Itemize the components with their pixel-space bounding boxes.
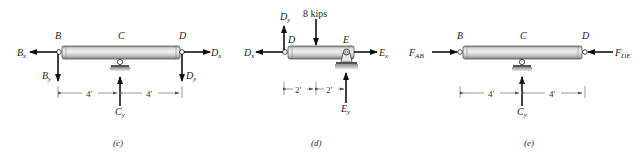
dimension-label-2: 2′ bbox=[326, 85, 333, 95]
force-label-bx: Bx bbox=[17, 47, 27, 60]
dimension-line bbox=[284, 82, 344, 95]
point-label-b: B bbox=[457, 30, 463, 41]
dimension-label-1: 4′ bbox=[488, 89, 495, 99]
point-label-e: E bbox=[342, 34, 349, 45]
point-label-d: D bbox=[581, 30, 590, 41]
force-label-dx: Dx bbox=[243, 47, 255, 60]
point-label-b: B bbox=[55, 30, 61, 41]
point-label-d: D bbox=[178, 30, 187, 41]
caption-c: (c) bbox=[113, 138, 123, 148]
roller-support-c bbox=[110, 59, 130, 71]
force-label-dx: Dx bbox=[210, 47, 222, 60]
force-label-cy: Cy bbox=[115, 106, 126, 119]
panel-e: B C D FAB FDE Cy 4′ 4′ (e) bbox=[408, 30, 631, 148]
dimension-label-2: 4′ bbox=[549, 89, 556, 99]
force-label-by: By bbox=[42, 70, 52, 83]
pin-d bbox=[283, 50, 288, 55]
force-label-ex: Ex bbox=[378, 47, 389, 60]
pin-d bbox=[583, 50, 588, 55]
pin-d bbox=[180, 50, 185, 55]
point-label-d: D bbox=[287, 34, 296, 45]
pin-b bbox=[57, 50, 62, 55]
point-label-c: C bbox=[520, 30, 527, 41]
force-label-ey: Ey bbox=[340, 103, 351, 116]
free-body-diagrams: B C D Bx By Dx Dy Cy 4′ 4′ (c) bbox=[0, 0, 642, 160]
force-label-fab: FAB bbox=[408, 47, 424, 60]
force-label-cy: Cy bbox=[517, 106, 528, 119]
force-label-dy: Dy bbox=[185, 70, 197, 83]
load-label: 8 kips bbox=[303, 8, 327, 19]
beam bbox=[463, 46, 582, 59]
beam bbox=[62, 46, 180, 59]
pin-b bbox=[458, 50, 463, 55]
caption-d: (d) bbox=[311, 138, 322, 148]
dimension-label-1: 2′ bbox=[295, 85, 302, 95]
dimension-label-2: 4′ bbox=[146, 89, 153, 99]
force-label-fde: FDE bbox=[614, 47, 631, 60]
dimension-label-1: 4′ bbox=[86, 89, 93, 99]
caption-e: (e) bbox=[524, 138, 534, 148]
force-label-dy: Dy bbox=[279, 11, 291, 24]
panel-d: 8 kips Dy D E Dx Ex Ey 2′ 2′ (d) bbox=[243, 8, 389, 148]
panel-c: B C D Bx By Dx Dy Cy 4′ 4′ (c) bbox=[17, 30, 222, 148]
roller-support-c bbox=[512, 59, 532, 71]
point-label-c: C bbox=[118, 30, 125, 41]
